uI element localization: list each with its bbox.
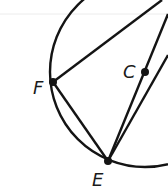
point-f [49, 78, 57, 86]
segment-e-to-right [108, 55, 168, 161]
label-e: E [92, 169, 104, 190]
chord-fe [53, 82, 108, 161]
label-c: C [123, 61, 136, 82]
point-e [104, 157, 112, 165]
label-f: F [33, 77, 44, 98]
circle-diagram: F C E [0, 0, 168, 195]
circle [50, 0, 168, 167]
point-c [141, 68, 149, 76]
segment-e-through-c [108, 14, 168, 161]
